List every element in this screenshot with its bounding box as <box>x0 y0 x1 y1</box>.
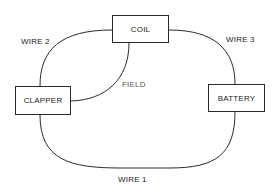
coil-box: COIL <box>112 15 169 43</box>
wire-1-label: WIRE 1 <box>118 175 147 184</box>
coil-label: COIL <box>131 25 150 34</box>
clapper-label: CLAPPER <box>24 96 63 105</box>
wire-3-label: WIRE 3 <box>226 35 255 44</box>
wire-2-label: WIRE 2 <box>21 37 50 46</box>
clapper-box: CLAPPER <box>15 86 71 115</box>
field-line <box>71 43 129 101</box>
battery-label: BATTERY <box>218 94 256 103</box>
battery-box: BATTERY <box>208 84 265 112</box>
wire-2-line <box>40 30 112 86</box>
field-label: FIELD <box>122 80 146 89</box>
wire-1-line <box>40 112 235 168</box>
